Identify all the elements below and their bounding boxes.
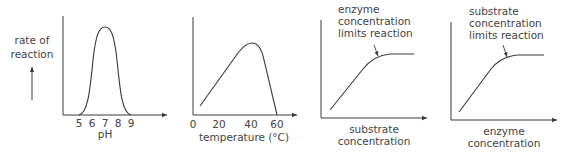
chart-substrate-annotation: enzyme concentration limits reaction xyxy=(338,3,413,39)
chart-ph-tick: 6 xyxy=(89,117,96,129)
x-label-line: substrate xyxy=(321,123,427,135)
annotation-line: limits reaction xyxy=(469,29,544,41)
chart-temp-tick: 60 xyxy=(270,118,283,130)
chart-ph xyxy=(63,16,167,115)
chart-enzyme-curve xyxy=(459,55,544,112)
chart-enzyme-pointer-arrow-icon xyxy=(503,45,507,57)
chart-ph-tick: 5 xyxy=(76,117,83,129)
y-axis-label-line2: reaction xyxy=(6,48,58,60)
annotation-line: concentration xyxy=(338,15,413,27)
chart-temp-tick: 0 xyxy=(190,118,197,130)
chart-ph-tick: 8 xyxy=(115,117,122,129)
annotation-line: substrate xyxy=(469,5,544,17)
chart-substrate-x-label: substrate concentration xyxy=(321,123,427,147)
annotation-line: limits reaction xyxy=(338,27,413,39)
chart-temp-x-label: temperature (°C) xyxy=(199,131,289,143)
x-label-line: concentration xyxy=(321,135,427,147)
y-axis-label: rate of reaction xyxy=(6,34,58,60)
annotation-line: concentration xyxy=(469,17,544,29)
chart-temperature xyxy=(193,17,297,115)
chart-enzyme-annotation: substrate concentration limits reaction xyxy=(469,5,544,41)
x-label-line: concentration xyxy=(451,137,557,149)
chart-ph-curve xyxy=(79,27,131,115)
annotation-line: enzyme xyxy=(338,3,413,15)
chart-enzyme-x-label: enzyme concentration xyxy=(451,125,557,149)
chart-substrate-curve xyxy=(330,54,414,110)
chart-ph-tick: 9 xyxy=(128,117,135,129)
chart-temp-tick: 20 xyxy=(212,118,225,130)
chart-substrate-pointer-arrow-icon xyxy=(374,45,378,56)
chart-temp-tick: 40 xyxy=(244,118,257,130)
x-label-line: enzyme xyxy=(451,125,557,137)
chart-ph-x-label: pH xyxy=(98,128,113,140)
y-axis-label-line1: rate of xyxy=(6,34,58,46)
chart-temp-curve xyxy=(200,43,277,115)
